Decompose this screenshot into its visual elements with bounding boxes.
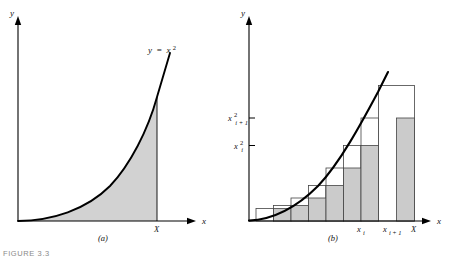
lower-rect	[361, 146, 379, 222]
ytick-lower-subscript: i	[241, 146, 243, 153]
xtick-i-subscript: i	[363, 229, 365, 236]
curve-label-equals: =	[157, 45, 162, 55]
figure-svg: y x X y = x 2 (a)	[0, 0, 457, 259]
panel-b-caption-label: (b)	[328, 233, 338, 243]
panel-b-x-tick-label-i-plus-1: x i + 1	[382, 224, 402, 236]
panel-b: y x x 2 i + 1 x 2 i	[227, 8, 441, 243]
panel-a-x-axis-arrowhead	[187, 218, 196, 224]
xtick-i1-base: x	[382, 224, 387, 234]
lower-rect	[344, 168, 362, 221]
lower-rect	[291, 206, 309, 222]
panel-a-y-axis-arrowhead	[15, 16, 21, 25]
ytick-lower-base: x	[233, 141, 238, 151]
lower-rect	[326, 186, 344, 222]
ytick-upper-subscript: i + 1	[235, 119, 248, 126]
ytick-upper-base: x	[227, 113, 232, 123]
ytick-lower-exponent: 2	[240, 139, 243, 146]
panel-a-x-tick-label-X: X	[153, 224, 160, 234]
svg-text:x 2 i + 1: x 2 i + 1	[227, 109, 248, 126]
lower-rect	[397, 118, 415, 221]
panel-a-caption-label: (a)	[98, 233, 108, 243]
svg-text:x 2 i: x 2 i	[233, 137, 245, 154]
curve-label-y: y	[147, 45, 152, 55]
panel-b-x-axis-label: x	[436, 216, 441, 226]
panel-b-y-tick-label-upper: x 2 i + 1	[227, 109, 248, 126]
panel-b-y-axis-label: y	[240, 8, 245, 18]
panel-a: y x X y = x 2 (a)	[9, 8, 206, 243]
panel-a-y-axis-label: y	[9, 8, 14, 18]
svg-text:y = x: y = x 2	[147, 44, 176, 56]
ytick-upper-exponent: 2	[234, 111, 237, 118]
xtick-i-base: x	[356, 224, 361, 234]
panel-b-y-tick-label-lower: x 2 i	[233, 137, 245, 154]
lower-rect	[309, 198, 327, 221]
curve-label-x: x	[166, 45, 171, 55]
panel-b-x-axis-arrowhead	[422, 218, 431, 224]
panel-a-x-axis-label: x	[201, 216, 206, 226]
figure-caption: FIGURE 3.3	[3, 249, 50, 258]
curve-label-exponent: 2	[173, 44, 176, 51]
figure-container: y x X y = x 2 (a)	[0, 0, 457, 259]
panel-b-y-axis-arrowhead	[246, 16, 252, 25]
panel-b-x-tick-label-i: x i	[356, 224, 365, 236]
panel-a-curve-equation-label: y = x 2	[147, 44, 176, 56]
svg-text:x i + 1: x i + 1	[382, 224, 402, 236]
xtick-i1-subscript: i + 1	[389, 229, 402, 236]
panel-b-x-tick-label-X: X	[410, 224, 417, 234]
svg-text:x i: x i	[356, 224, 365, 236]
